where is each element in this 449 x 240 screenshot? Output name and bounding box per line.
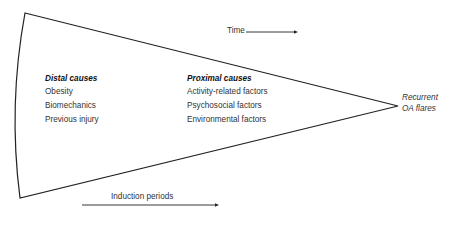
distal-item: Previous injury [45, 115, 99, 125]
proximal-item: Psychosocial factors [187, 101, 262, 111]
induction-arrow-head [215, 203, 219, 206]
outcome-label-line1: Recurrent [402, 93, 438, 103]
proximal-item: Activity-related factors [187, 87, 268, 97]
outcome-label-line2: OA flares [402, 104, 436, 114]
distal-item: Obesity [45, 87, 73, 97]
distal-causes-header: Distal causes [45, 74, 97, 84]
proximal-causes-header: Proximal causes [187, 74, 252, 84]
time-label: Time [227, 26, 245, 36]
induction-periods-label: Induction periods [111, 192, 173, 202]
time-arrow-head [294, 30, 298, 33]
proximal-item: Environmental factors [187, 115, 266, 125]
distal-item: Biomechanics [45, 101, 96, 111]
